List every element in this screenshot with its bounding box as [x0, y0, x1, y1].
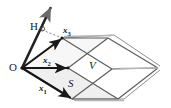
- label-vector-x2-index: 2: [48, 60, 51, 67]
- x2-vertex-dot: [67, 67, 70, 70]
- figure-drawing: [0, 0, 171, 108]
- label-vector-x2: x2: [43, 56, 51, 67]
- label-volume: V: [89, 60, 96, 71]
- origin-dot: [20, 66, 23, 69]
- label-vector-x1-index: 1: [44, 88, 47, 95]
- perpendicular-dashed-line: [42, 30, 60, 37]
- label-height: H: [30, 21, 38, 32]
- label-vector-x3-index: 3: [68, 30, 71, 37]
- label-vector-x1: x1: [39, 84, 47, 95]
- right-angle-marker: [41, 27, 46, 32]
- label-vector-x3: x3: [63, 26, 71, 37]
- parallelepiped-figure: O H x1 x2 x3 S V: [0, 0, 171, 108]
- label-origin: O: [9, 62, 17, 73]
- label-base-area: S: [68, 78, 74, 89]
